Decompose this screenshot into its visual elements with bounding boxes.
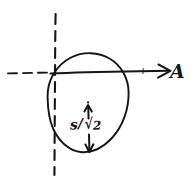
horizontal-axis-arrow: [51, 65, 171, 78]
vertical-dashed-line: [54, 14, 55, 175]
figure-canvas: A s/√2: [0, 0, 194, 182]
radius-dimension-label: s/√2: [70, 117, 103, 133]
horizontal-dashed-axis-segment: [8, 73, 47, 74]
radius-label-radicand: 2: [93, 120, 102, 132]
sketch-drawing: [0, 0, 194, 182]
radius-label-sqrt-group: √2: [83, 117, 103, 132]
axis-label-a: A: [170, 60, 185, 82]
